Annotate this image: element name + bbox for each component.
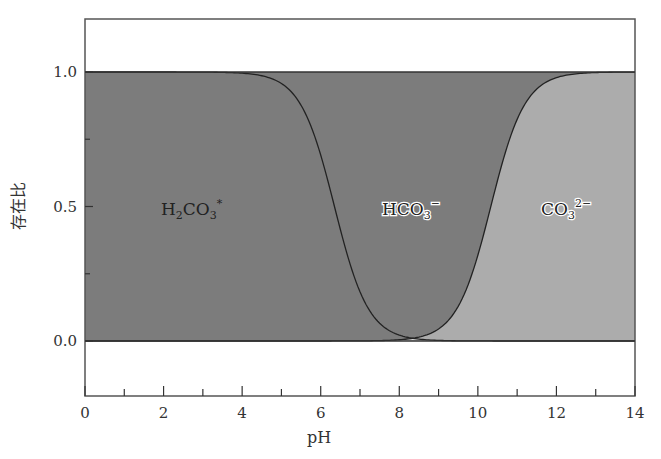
x-axis-title: pH <box>307 428 331 447</box>
x-tick-label: 6 <box>316 404 326 422</box>
y-axis-title: 存在比 <box>9 182 28 230</box>
x-tick-label: 12 <box>547 404 566 422</box>
y-tick-label: 0.5 <box>53 198 77 216</box>
x-tick-label: 4 <box>237 404 247 422</box>
x-tick-label: 0 <box>80 404 90 422</box>
x-axis-ticks: 02468101214 <box>80 386 644 422</box>
x-tick-label: 14 <box>625 404 644 422</box>
x-tick-label: 2 <box>159 404 169 422</box>
x-tick-label: 8 <box>395 404 405 422</box>
speciation-chart: 02468101214 0.00.51.0 H2CO3*HCO3−CO32− p… <box>0 0 661 459</box>
y-tick-label: 1.0 <box>53 63 77 81</box>
x-tick-label: 10 <box>468 404 487 422</box>
y-tick-label: 0.0 <box>53 332 77 350</box>
